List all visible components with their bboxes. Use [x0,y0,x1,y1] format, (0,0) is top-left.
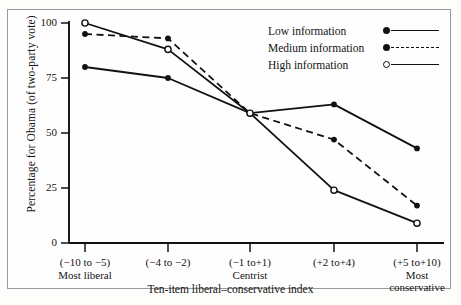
data-point [331,137,337,143]
x-tick-sub-3: Centrist [195,269,305,282]
x-tick-range-4: (+2 to+4) [313,256,355,268]
series-low-information [82,64,420,151]
legend-swatch-high-information [381,58,439,72]
filled-circle-icon [383,44,390,51]
x-tick-range-2: (−4 to −2) [146,256,191,268]
x-tick-range-3: (−1 to+1) [229,256,271,268]
data-point [414,146,420,152]
data-point [414,203,420,209]
legend-item-low-information: Low information [268,22,439,39]
chart-legend: Low information Medium information High … [268,22,439,73]
legend-label-medium-information: Medium information [268,42,381,54]
open-circle-icon [383,61,390,68]
y-axis-title: Percentage for Obama (of two-party vote) [25,9,37,219]
data-point [247,110,253,116]
legend-item-high-information: High information [268,56,439,73]
filled-circle-icon [383,27,390,34]
data-point [165,36,171,42]
legend-label-low-information: Low information [268,25,381,37]
x-tick-range-1: (−10 to −5) [60,256,110,268]
data-point [165,75,171,81]
x-axis-title: Ten-item liberal–conservative index [0,283,461,295]
legend-line-dashed [391,47,439,48]
data-point [414,220,420,226]
legend-swatch-low-information [381,24,439,38]
x-tick-sub-5a: Most [362,269,461,282]
x-tick-range-5: (+5 to+10) [393,256,441,268]
data-point [165,46,171,52]
data-point [82,64,88,70]
legend-line-solid [391,30,439,31]
legend-item-medium-information: Medium information [268,39,439,56]
data-point [331,102,337,108]
data-point [82,20,88,26]
data-point [82,31,88,37]
figure-container: 100 75 50 25 0 (−10 to −5) Most liberal … [0,0,461,305]
data-point [331,187,337,193]
x-tick-sub-1: Most liberal [30,269,140,282]
legend-label-high-information: High information [268,59,381,71]
x-tick-marks [85,243,417,252]
y-tick-marks [61,23,69,243]
legend-line-solid [391,64,439,65]
y-tick-label-0: 0 [27,236,57,248]
series-line [85,67,417,148]
legend-swatch-medium-information [381,41,439,55]
